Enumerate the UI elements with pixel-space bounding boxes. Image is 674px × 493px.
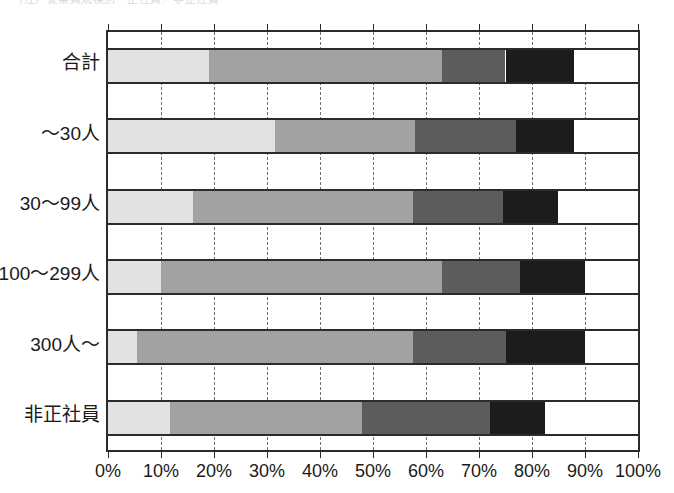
bar-segment-2[interactable] — [137, 331, 413, 363]
y-axis-labels: 合計～30人30～99人100～299人300人～非正社員 — [0, 30, 106, 452]
stacked-bar[interactable] — [108, 329, 638, 365]
bar-segment-4[interactable] — [516, 120, 574, 152]
bar-segment-2[interactable] — [170, 402, 362, 434]
x-axis-label-10%: 10% — [143, 460, 179, 482]
stacked-bar-chart: 合計～30人30～99人100～299人300人～非正社員 0%10%20%30… — [0, 0, 674, 493]
bar-segment-1[interactable] — [108, 191, 193, 223]
stacked-bar[interactable] — [108, 259, 638, 295]
x-axis-label-70%: 70% — [461, 460, 497, 482]
bar-segment-1[interactable] — [108, 402, 170, 434]
bar-segment-2[interactable] — [193, 191, 413, 223]
bar-segment-3[interactable] — [413, 331, 506, 363]
bar-segment-5[interactable] — [545, 402, 638, 434]
bar-segment-1[interactable] — [108, 331, 137, 363]
y-axis-label-1: 合計 — [62, 52, 100, 74]
x-axis-labels: 0%10%20%30%40%50%60%70%80%90%100% — [0, 460, 674, 488]
bar-row — [108, 102, 638, 172]
bar-row — [108, 384, 638, 454]
stacked-bar[interactable] — [108, 48, 638, 84]
bar-segment-2[interactable] — [161, 261, 442, 293]
bar-segment-4[interactable] — [490, 402, 546, 434]
bar-segment-3[interactable] — [442, 261, 520, 293]
bar-segment-3[interactable] — [442, 50, 506, 82]
tick-bottom-100pct — [638, 452, 639, 458]
x-axis-label-30%: 30% — [249, 460, 285, 482]
bar-segment-3[interactable] — [362, 402, 489, 434]
bar-row — [108, 173, 638, 243]
x-axis-label-20%: 20% — [196, 460, 232, 482]
bar-segment-5[interactable] — [574, 50, 638, 82]
x-axis-label-80%: 80% — [514, 460, 550, 482]
bar-segment-4[interactable] — [506, 331, 586, 363]
plot-area — [106, 30, 640, 452]
y-axis-label-2: ～30人 — [41, 123, 100, 145]
bar-segment-5[interactable] — [574, 120, 638, 152]
bar-segment-1[interactable] — [108, 50, 209, 82]
bar-segment-3[interactable] — [413, 191, 503, 223]
bar-segment-4[interactable] — [503, 191, 559, 223]
x-axis-label-50%: 50% — [355, 460, 391, 482]
bar-row — [108, 32, 638, 102]
stacked-bar[interactable] — [108, 400, 638, 436]
x-axis-label-90%: 90% — [567, 460, 603, 482]
y-axis-label-4: 100～299人 — [0, 263, 100, 285]
stacked-bar[interactable] — [108, 189, 638, 225]
y-axis-label-5: 300人～ — [30, 334, 100, 356]
bar-segment-4[interactable] — [506, 50, 575, 82]
x-axis-label-100%: 100% — [615, 460, 661, 482]
bar-row — [108, 313, 638, 383]
bar-segment-5[interactable] — [585, 261, 638, 293]
bar-segment-3[interactable] — [415, 120, 516, 152]
y-axis-label-3: 30～99人 — [20, 193, 100, 215]
bar-segment-2[interactable] — [275, 120, 415, 152]
bar-row — [108, 243, 638, 313]
x-axis-label-60%: 60% — [408, 460, 444, 482]
bar-segment-5[interactable] — [559, 191, 639, 223]
bar-segment-1[interactable] — [108, 120, 275, 152]
x-axis-label-40%: 40% — [302, 460, 338, 482]
bar-segment-1[interactable] — [108, 261, 161, 293]
x-axis-label-0%: 0% — [95, 460, 121, 482]
y-axis-label-6: 非正社員 — [24, 404, 100, 426]
bar-segment-4[interactable] — [520, 261, 585, 293]
stacked-bar[interactable] — [108, 118, 638, 154]
bar-segment-2[interactable] — [209, 50, 442, 82]
bar-segment-5[interactable] — [585, 331, 638, 363]
